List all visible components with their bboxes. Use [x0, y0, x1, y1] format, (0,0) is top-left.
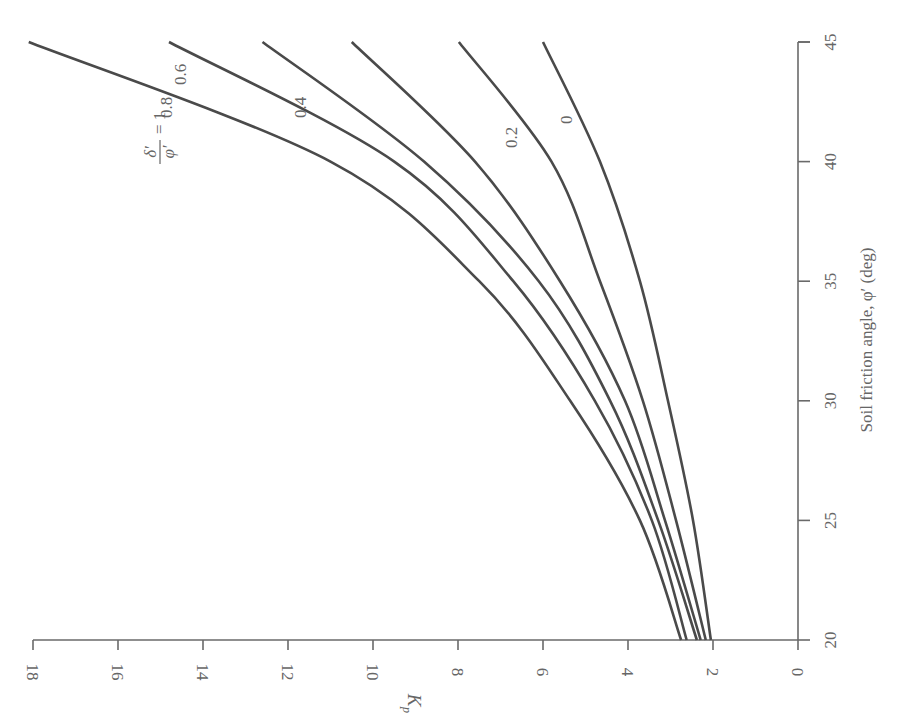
curve-label-ratio-1: δ′ φ′ = 1 — [141, 112, 178, 164]
kp-tick-label: 16 — [108, 664, 127, 681]
curves — [29, 42, 711, 640]
curve-label-0.2: 0.2 — [502, 127, 521, 148]
curve-label-0.6: 0.6 — [171, 64, 190, 85]
phi-axis-title: Soil friction angle, φ′ (deg) — [857, 248, 876, 433]
curve-0.8 — [169, 42, 687, 640]
curve-label-0: 0 — [557, 116, 576, 125]
curve-1 — [29, 42, 681, 640]
phi-tick-label: 20 — [821, 632, 840, 649]
svg-text:p: p — [400, 706, 414, 713]
kp-tick-label: 2 — [703, 668, 722, 677]
kp-tick-label: 12 — [278, 664, 297, 681]
phi-tick-label: 45 — [821, 34, 840, 51]
kp-tick-label: 0 — [788, 668, 807, 677]
curve-label-0.4: 0.4 — [291, 96, 310, 118]
phi-tick-label: 25 — [821, 512, 840, 529]
kp-tick-label: 8 — [448, 668, 467, 677]
kp-tick-label: 4 — [618, 668, 637, 677]
kp-ticks: 024681012141618 — [23, 640, 807, 681]
phi-tick-label: 40 — [821, 153, 840, 170]
kp-chart: 024681012141618 202530354045 K p Soil fr… — [0, 0, 901, 721]
curve-0.4 — [352, 42, 701, 640]
kp-axis-title: K p — [400, 693, 425, 713]
curve-0 — [543, 42, 711, 640]
phi-ticks: 202530354045 — [798, 34, 840, 649]
kp-tick-label: 14 — [193, 664, 212, 682]
svg-text:K: K — [404, 693, 425, 708]
curve-label-0.8: 0.8 — [157, 97, 176, 118]
svg-text:φ′: φ′ — [159, 145, 178, 158]
phi-tick-label: 35 — [821, 273, 840, 290]
kp-tick-label: 10 — [363, 664, 382, 681]
curve-0.6 — [263, 42, 697, 640]
kp-tick-label: 6 — [533, 668, 552, 677]
svg-text:δ′: δ′ — [141, 146, 160, 158]
phi-tick-label: 30 — [821, 392, 840, 409]
kp-tick-label: 18 — [23, 664, 42, 681]
